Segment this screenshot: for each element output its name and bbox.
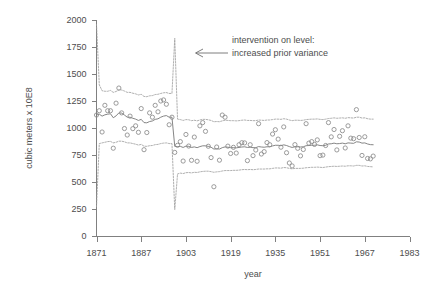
x-axis-title: year: [244, 269, 262, 279]
observation-point: [122, 126, 126, 130]
observation-point: [321, 153, 325, 157]
annotation-line-1: intervention on level:: [232, 35, 315, 45]
y-tick-label: 250: [71, 204, 86, 214]
y-tick-label: 750: [71, 150, 86, 160]
observation-point: [117, 86, 121, 90]
x-tick-label: 1951: [310, 248, 330, 258]
y-tick-label: 1500: [66, 69, 86, 79]
observation-point: [304, 122, 308, 126]
chart-page: 025050075010001250150017502000 cubic met…: [0, 0, 442, 295]
observation-point: [100, 130, 104, 134]
observation-point: [371, 154, 375, 158]
observation-point: [326, 121, 330, 125]
observation-point: [212, 185, 216, 189]
observation-points: [94, 86, 375, 189]
observation-point: [229, 151, 233, 155]
observation-point: [164, 102, 168, 106]
observation-point: [251, 154, 255, 158]
observation-point: [178, 140, 182, 144]
x-tick-marks: [97, 237, 410, 243]
observation-point: [181, 159, 185, 163]
annotation-line-2: increased prior variance: [232, 48, 328, 58]
observation-point: [243, 141, 247, 145]
observation-point: [145, 130, 149, 134]
observation-point: [220, 113, 224, 117]
y-tick-labels: 025050075010001250150017502000: [66, 15, 86, 241]
y-tick-label: 1750: [66, 42, 86, 52]
observation-point: [284, 151, 288, 155]
observation-point: [234, 151, 238, 155]
observation-point: [335, 148, 339, 152]
y-axis: 025050075010001250150017502000 cubic met…: [24, 15, 97, 241]
observation-point: [360, 153, 364, 157]
x-tick-label: 1967: [355, 248, 375, 258]
observation-point: [189, 158, 193, 162]
observation-point: [217, 158, 221, 162]
observation-point: [301, 147, 305, 151]
observation-point: [312, 142, 316, 146]
observation-point: [268, 143, 272, 147]
intervention-annotation: intervention on level: increased prior v…: [196, 35, 329, 58]
observation-point: [354, 108, 358, 112]
observation-point: [346, 124, 350, 128]
observation-point: [332, 127, 336, 131]
observation-point: [282, 125, 286, 129]
observation-point: [363, 135, 367, 139]
observation-point: [203, 129, 207, 133]
observation-point: [134, 124, 138, 128]
observation-point: [111, 146, 115, 150]
observation-point: [139, 106, 143, 110]
observation-point: [290, 164, 294, 168]
observation-point: [357, 135, 361, 139]
observation-point: [97, 109, 101, 113]
y-tick-label: 1250: [66, 96, 86, 106]
observation-point: [352, 137, 356, 141]
observation-point: [195, 159, 199, 163]
observation-point: [156, 110, 160, 114]
observation-point: [223, 115, 227, 119]
nile-flow-chart: 025050075010001250150017502000 cubic met…: [0, 0, 442, 295]
observation-point: [114, 101, 118, 105]
y-tick-label: 0: [81, 231, 86, 241]
observation-point: [245, 159, 249, 163]
observation-point: [184, 132, 188, 136]
observation-point: [270, 132, 274, 136]
y-tick-marks: [92, 21, 97, 237]
observation-point: [248, 143, 252, 147]
observation-point: [108, 109, 112, 113]
observation-point: [293, 143, 297, 147]
observation-point: [256, 122, 260, 126]
observation-point: [136, 130, 140, 134]
observation-point: [343, 146, 347, 150]
x-tick-labels: 18711887190319191935195119671983: [86, 248, 419, 258]
observation-point: [103, 103, 107, 107]
x-tick-label: 1983: [399, 248, 419, 258]
observation-point: [150, 115, 154, 119]
observation-point: [125, 133, 129, 137]
x-tick-label: 1935: [265, 248, 285, 258]
observation-point: [265, 140, 269, 144]
observation-point: [259, 152, 263, 156]
observation-point: [340, 129, 344, 133]
observation-point: [298, 154, 302, 158]
x-tick-label: 1887: [131, 248, 151, 258]
observation-point: [167, 123, 171, 127]
observation-point: [142, 148, 146, 152]
observation-point: [209, 155, 213, 159]
y-tick-label: 2000: [66, 15, 86, 25]
observation-point: [201, 121, 205, 125]
y-tick-label: 1000: [66, 123, 86, 133]
x-tick-label: 1871: [86, 248, 106, 258]
observation-point: [148, 111, 152, 115]
x-axis: 18711887190319191935195119671983 year: [86, 237, 419, 280]
y-axis-title: cubic meters x 10E8: [24, 87, 34, 169]
y-tick-label: 500: [71, 177, 86, 187]
observation-point: [329, 135, 333, 139]
observation-point: [254, 148, 258, 152]
observation-point: [153, 103, 157, 107]
x-tick-label: 1903: [176, 248, 196, 258]
observation-point: [173, 150, 177, 154]
observation-point: [276, 137, 280, 141]
observation-point: [262, 150, 266, 154]
observation-point: [192, 135, 196, 139]
